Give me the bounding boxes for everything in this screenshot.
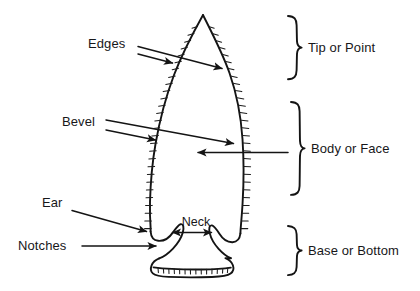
callout-bevel[interactable]: Bevel (62, 114, 234, 144)
point-right-outline (203, 15, 244, 234)
callout-edges[interactable]: Edges (88, 36, 222, 69)
ear-leader (72, 211, 147, 232)
bevel-leader-left (106, 130, 156, 140)
tip-or-point-label: Tip or Point (308, 40, 375, 55)
neck-label: Neck (182, 215, 211, 229)
projectile-point-diagram: Edges Bevel Ear Notches (0, 0, 420, 291)
brace-tip-or-point: Tip or Point (288, 16, 375, 79)
left-ear-and-notch (151, 224, 184, 258)
body-or-face-label: Body or Face (311, 141, 390, 156)
brace-base-or-bottom: Base or Bottom (288, 226, 399, 275)
bevel-leader-right (106, 120, 234, 144)
curly-brace-icon (288, 16, 302, 79)
right-ear-and-notch (209, 225, 240, 258)
notches-label: Notches (18, 238, 67, 253)
base-bottom-rim (154, 267, 231, 269)
curly-brace-icon (291, 102, 305, 195)
callout-notches[interactable]: Notches (18, 238, 156, 253)
projectile-point-outline (150, 15, 244, 277)
edges-leader-left (138, 54, 173, 63)
point-body-outline (150, 15, 203, 232)
curly-brace-icon (288, 226, 302, 275)
diagram-root: Edges Bevel Ear Notches (0, 0, 420, 291)
callout-ear[interactable]: Ear (42, 195, 147, 232)
brace-body-or-face: Body or Face (291, 102, 390, 195)
ear-label: Ear (42, 195, 63, 210)
callout-neck[interactable]: Neck (173, 215, 212, 233)
edges-label: Edges (88, 36, 126, 51)
base-or-bottom-label: Base or Bottom (308, 243, 399, 258)
bevel-label: Bevel (62, 114, 95, 129)
flake-scar-hatching (145, 27, 251, 275)
